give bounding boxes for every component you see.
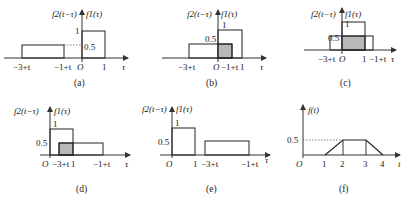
half-label: 0.5 bbox=[84, 42, 96, 52]
axis-label: τ bbox=[265, 155, 269, 165]
f2-rect bbox=[22, 45, 64, 58]
one-label: 1 bbox=[222, 20, 227, 30]
half-label: 0.5 bbox=[158, 137, 170, 147]
f2-label: f2(t−τ) bbox=[52, 9, 77, 19]
caption-d: (d) bbox=[76, 184, 87, 195]
f1-label: f1(τ) bbox=[86, 9, 102, 19]
f1-label: f1(τ) bbox=[221, 9, 237, 19]
x1-label: −3+t bbox=[178, 62, 196, 72]
axis-label: τ bbox=[260, 62, 264, 72]
origin-label: O bbox=[77, 62, 84, 72]
t2-label: 2 bbox=[340, 159, 345, 169]
x2-label: −3+t bbox=[201, 159, 219, 169]
origin-label: O bbox=[42, 159, 49, 169]
f1-rect bbox=[172, 128, 195, 155]
panel-e: f2(t−τ) f1(τ) 1 0.5 O 1 −3+t −1+t τ (e) bbox=[142, 104, 270, 195]
caption-b: (b) bbox=[206, 78, 217, 89]
x3-label: 1 bbox=[102, 62, 107, 72]
axis-label: t bbox=[398, 159, 401, 169]
half-label: 0.5 bbox=[287, 135, 299, 145]
axis-label: τ bbox=[122, 62, 126, 72]
half-label: 0.5 bbox=[205, 34, 217, 44]
overlap-area bbox=[59, 143, 73, 155]
convolution-diagram: f2(t−τ) f1(τ) 1 0.5 −3+t −1+t O 1 τ (a) … bbox=[0, 0, 410, 197]
axis-label: τ bbox=[125, 159, 129, 169]
panel-c: f2(t−τ) f1(τ) 1 0.5 −3+t O 1 −1+t τ (c) bbox=[304, 8, 396, 89]
f-label: f(t) bbox=[308, 105, 319, 115]
f1-label: f1(τ) bbox=[345, 9, 361, 19]
panel-b: f2(t−τ) f1(τ) 1 0.5 −3+t O −1+t 1 τ (b) bbox=[162, 9, 266, 89]
x2-label: −1+t bbox=[54, 62, 72, 72]
caption-e: (e) bbox=[206, 184, 217, 195]
panel-d: f2(t−τ) f1(τ) 1 0.5 O −3+t 1 −1+t τ (d) bbox=[14, 106, 130, 195]
t3-label: 3 bbox=[363, 159, 368, 169]
x1-label: 1 bbox=[193, 159, 198, 169]
half-label: 0.5 bbox=[328, 33, 340, 43]
t1-label: 1 bbox=[322, 159, 327, 169]
overlap-area bbox=[218, 44, 232, 58]
caption-c: (c) bbox=[340, 78, 351, 89]
x1-label: −3+t bbox=[52, 159, 70, 169]
origin-label: O bbox=[339, 54, 346, 64]
caption-a: (a) bbox=[74, 78, 85, 89]
f2-rect bbox=[205, 141, 249, 155]
one-label: 1 bbox=[75, 26, 80, 36]
one-label: 1 bbox=[345, 19, 350, 29]
t4-label: 4 bbox=[380, 159, 385, 169]
caption-f: (f) bbox=[339, 184, 349, 195]
origin-label: O bbox=[166, 159, 173, 169]
f1-label: f1(τ) bbox=[176, 104, 192, 114]
x1-label: −3+t bbox=[13, 62, 31, 72]
panel-f: f(t) 0.5 O 1 2 3 4 t (f) bbox=[287, 105, 401, 195]
f2-label: f2(t−τ) bbox=[311, 9, 336, 19]
x3-label: −1+t bbox=[93, 159, 111, 169]
f-trapezoid bbox=[325, 140, 383, 155]
axis-label: τ bbox=[391, 54, 395, 64]
x1-label: −3+t bbox=[318, 54, 336, 64]
x2-label: 1 bbox=[362, 54, 367, 64]
f2-label: f2(t−τ) bbox=[187, 9, 212, 19]
x3-label: −1+t bbox=[369, 54, 387, 64]
f1-label: f1(τ) bbox=[54, 106, 70, 116]
half-label: 0.5 bbox=[36, 138, 48, 148]
panel-a: f2(t−τ) f1(τ) 1 0.5 −3+t −1+t O 1 τ (a) bbox=[4, 9, 128, 89]
f2-label: f2(t−τ) bbox=[14, 106, 39, 116]
x3-label: −1+t bbox=[241, 159, 259, 169]
x2-label: −1+t bbox=[221, 62, 239, 72]
x3-label: 1 bbox=[240, 62, 245, 72]
overlap-area bbox=[342, 36, 365, 50]
x2-label: 1 bbox=[71, 159, 76, 169]
f2-label: f2(t−τ) bbox=[142, 104, 167, 114]
origin-label: O bbox=[296, 159, 303, 169]
origin-label: O bbox=[213, 62, 220, 72]
one-label: 1 bbox=[53, 119, 58, 129]
one-label: 1 bbox=[175, 118, 180, 128]
